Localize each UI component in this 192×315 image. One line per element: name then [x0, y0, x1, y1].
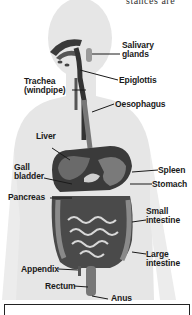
label-large-intestine: Large intestine [146, 250, 180, 268]
label-rectum: Rectum [45, 282, 76, 291]
label-appendix: Appendix [21, 265, 59, 274]
label-oesophagus: Oesophagus [115, 100, 165, 109]
liver-stomach [52, 146, 132, 192]
label-small-intestine: Small intestine [146, 207, 180, 225]
caption-box-border [4, 304, 190, 315]
label-spleen: Spleen [158, 166, 185, 175]
label-pancreas: Pancreas [8, 193, 45, 202]
label-gall-bladder: Gall bladder [14, 163, 44, 181]
label-salivary-glands: Salivary glands [122, 41, 154, 59]
label-anus: Anus [111, 294, 132, 303]
label-liver: Liver [36, 132, 56, 141]
label-trachea: Trachea (windpipe) [24, 77, 66, 95]
label-epiglottis: Epiglottis [119, 76, 157, 85]
label-stomach: Stomach [152, 180, 187, 189]
